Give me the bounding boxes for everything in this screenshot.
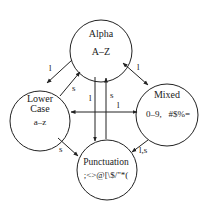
state-alpha-chars: A–Z xyxy=(92,46,110,57)
label-lower-to-punct: s xyxy=(59,144,63,154)
state-punct-name: Punctuation xyxy=(83,157,129,167)
state-lower-case: Lower Case a–z xyxy=(10,91,70,151)
state-lower-chars: a–z xyxy=(34,117,47,127)
state-mixed-name: Mixed xyxy=(154,89,180,100)
state-diagram: Alpha A–Z Lower Case a–z Mixed 0–9, #$%=… xyxy=(0,0,207,213)
edge-lower-to-alpha xyxy=(60,72,80,96)
state-punct-chars: ;<>@[\$/"*( xyxy=(84,170,129,180)
edge-alpha-mixed xyxy=(123,63,148,85)
state-punctuation: Punctuation ;<>@[\$/"*( xyxy=(77,140,137,200)
state-lower-name-line2: Case xyxy=(30,103,50,114)
label-lower-mixed: l xyxy=(117,100,120,110)
label-alpha-to-punct: l xyxy=(89,93,92,103)
label-alpha-mixed: l xyxy=(137,62,140,72)
label-mixed-to-punct: l,s xyxy=(139,145,148,155)
state-mixed: Mixed 0–9, #$%= xyxy=(136,84,198,146)
label-lower-to-alpha: s xyxy=(72,83,76,93)
label-punct-to-alpha: s xyxy=(110,90,114,100)
state-mixed-chars: 0–9, #$%= xyxy=(146,109,190,119)
label-alpha-to-lower: l xyxy=(49,63,52,73)
state-alpha-name: Alpha xyxy=(89,28,114,39)
